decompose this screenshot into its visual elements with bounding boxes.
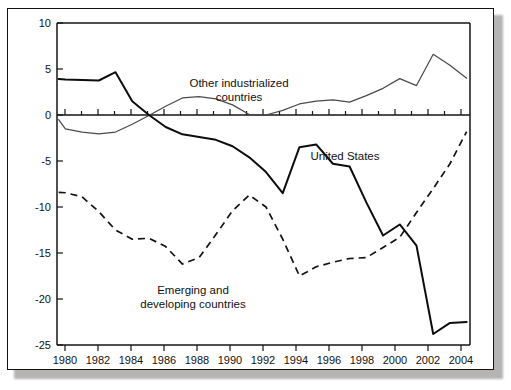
- x-tick-label: 1988: [185, 354, 209, 366]
- y-tick-label: 5: [45, 63, 51, 75]
- series-emerging-and-developing-countries: [59, 132, 467, 276]
- y-tick-label: -20: [35, 293, 51, 305]
- y-tick-label: -10: [35, 201, 51, 213]
- x-tick-label: 1984: [119, 354, 143, 366]
- y-tick-label: -15: [35, 247, 51, 259]
- y-tick-label: 0: [45, 109, 51, 121]
- x-tick-label: 1992: [251, 354, 275, 366]
- x-tick-label: 2004: [449, 354, 473, 366]
- x-tick-marks-bottom: [65, 345, 461, 351]
- x-tick-marks-zeroline: [65, 109, 461, 115]
- x-tick-label: 1996: [317, 354, 341, 366]
- x-tick-label: 1990: [218, 354, 242, 366]
- x-tick-label: 1998: [350, 354, 374, 366]
- y-tick-label: 10: [39, 17, 51, 29]
- plot-axes: [57, 23, 470, 345]
- series-other-industrialized-countries: [59, 54, 467, 134]
- y-axis-tick-labels: 10 5 0 -5 -10 -15 -20 -25: [35, 17, 51, 351]
- y-tick-label: -25: [35, 339, 51, 351]
- x-tick-label: 2000: [383, 354, 407, 366]
- label-united-states: United States: [310, 150, 379, 162]
- x-tick-label: 1980: [53, 354, 77, 366]
- x-tick-label: 1982: [86, 354, 110, 366]
- y-tick-marks: [57, 23, 63, 345]
- x-tick-label: 1994: [284, 354, 308, 366]
- label-other-industrialized-line2: countries: [216, 91, 263, 103]
- x-tick-label: 1986: [152, 354, 176, 366]
- figure-root: 10 5 0 -5 -10 -15 -20 -25: [0, 0, 511, 390]
- line-chart: 10 5 0 -5 -10 -15 -20 -25: [7, 8, 494, 370]
- label-emerging-line1: Emerging and: [157, 284, 229, 296]
- label-other-industrialized-line1: Other industrialized: [189, 77, 288, 89]
- y-tick-label: -5: [41, 155, 51, 167]
- label-emerging-line2: developing countries: [140, 298, 246, 310]
- x-tick-label: 2002: [416, 354, 440, 366]
- x-axis-tick-labels: 1980 1982 1984 1986 1988 1990 1992 1994 …: [53, 354, 473, 366]
